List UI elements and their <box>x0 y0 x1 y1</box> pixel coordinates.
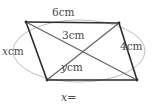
vertex-top-left <box>25 21 28 24</box>
vertex-top-right <box>118 22 121 25</box>
label-right-side: 4cm <box>120 41 143 52</box>
vertex-bottom-left <box>46 79 49 82</box>
side-top <box>26 22 119 23</box>
vertex-bottom-right <box>136 79 139 82</box>
label-lower-diagonal-unit: cm <box>67 61 83 73</box>
label-upper-diagonal: 3cm <box>62 30 85 41</box>
label-lower-diagonal: ycm <box>61 62 83 73</box>
label-left-side: xcm <box>2 46 24 57</box>
geometry-figure: 6cm 3cm 4cm xcm ycm x= <box>0 0 154 110</box>
label-top-side: 6cm <box>52 7 75 18</box>
answer-prompt: x= <box>61 91 76 104</box>
answer-equals-sign: = <box>67 91 76 104</box>
label-left-side-unit: cm <box>8 45 24 57</box>
